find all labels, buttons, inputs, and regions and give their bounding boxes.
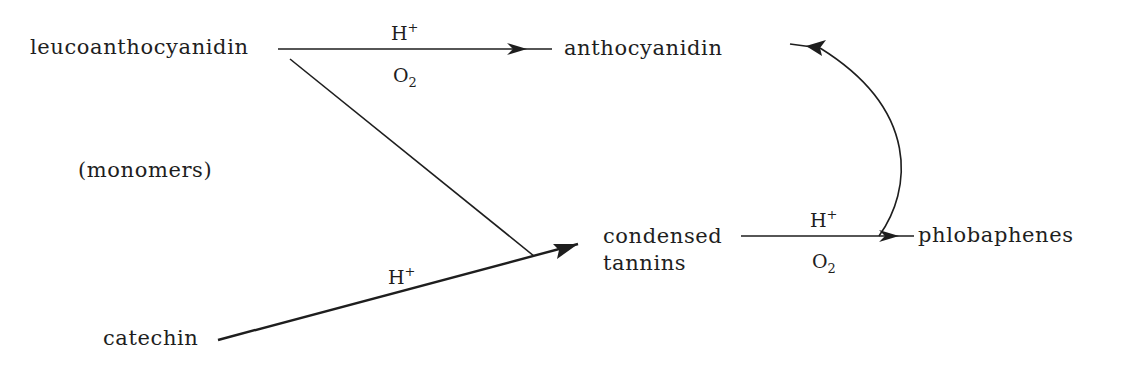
arrow-catechin-to-tannins — [218, 244, 578, 340]
curved-arrow-phlobaphenes-to-antho — [790, 40, 901, 236]
condition-h-plus-2: H+ — [810, 207, 837, 231]
condition-h-plus-catechin: H+ — [388, 264, 415, 288]
arrow-leuco-to-antho — [278, 43, 552, 55]
condition-h-plus-1: H+ — [391, 20, 418, 44]
monomers-note: (monomers) — [78, 158, 212, 182]
node-phlobaphenes: phlobaphenes — [918, 223, 1074, 247]
node-condensed-tannins-line2: tannins — [603, 251, 686, 275]
node-condensed-tannins-line1: condensed — [603, 224, 722, 248]
node-leucoanthocyanidin: leucoanthocyanidin — [30, 35, 249, 59]
node-anthocyanidin: anthocyanidin — [564, 36, 723, 60]
arrow-tannins-to-phlobaphenes — [741, 230, 914, 242]
node-catechin: catechin — [103, 326, 198, 350]
condition-o2-1: O2 — [393, 64, 417, 90]
reaction-diagram: leucoanthocyanidin anthocyanidin (monome… — [0, 0, 1122, 366]
diagram-canvas: leucoanthocyanidin anthocyanidin (monome… — [0, 0, 1122, 366]
condition-o2-2: O2 — [812, 250, 836, 276]
